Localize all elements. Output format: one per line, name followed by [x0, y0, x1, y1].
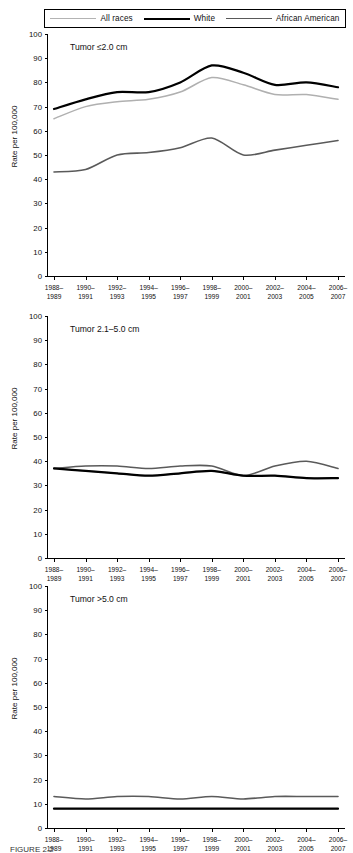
x-tick-6	[243, 276, 244, 280]
legend-line-white-icon	[144, 18, 190, 20]
legend-label-all-races: All races	[100, 14, 132, 23]
y-tick-label-40: 40	[12, 457, 42, 466]
x-axis-2	[47, 828, 345, 829]
series-lines-0	[47, 34, 345, 276]
x-tick-1	[86, 558, 87, 562]
y-tick-label-50: 50	[12, 433, 42, 442]
x-tick-7	[275, 558, 276, 562]
y-axis-label-0: Rate per 100,000	[10, 67, 19, 207]
x-tick-8	[306, 276, 307, 280]
y-tick-label-100: 100	[12, 312, 42, 321]
x-tick-2	[117, 276, 118, 280]
y-tick-label-30: 30	[12, 751, 42, 760]
plot-area-1: 01020304050607080901001988– 19891990– 19…	[47, 316, 345, 558]
legend-entry-all-races: All races	[50, 14, 132, 23]
y-tick-label-90: 90	[12, 336, 42, 345]
chart-legend: All races White African American	[44, 9, 346, 28]
figure-container: All races White African American Rate pe…	[0, 0, 353, 853]
x-tick-0	[54, 828, 55, 832]
x-tick-6	[243, 558, 244, 562]
y-tick-label-0: 0	[12, 824, 42, 833]
x-tick-0	[54, 558, 55, 562]
y-tick-label-20: 20	[12, 223, 42, 232]
y-axis-label-1: Rate per 100,000	[10, 349, 19, 489]
y-tick-label-80: 80	[12, 360, 42, 369]
y-tick-label-80: 80	[12, 630, 42, 639]
y-tick-label-0: 0	[12, 554, 42, 563]
y-tick-label-40: 40	[12, 175, 42, 184]
line-white-1	[54, 468, 338, 478]
legend-label-white: White	[194, 14, 215, 23]
x-tick-1	[86, 828, 87, 832]
y-tick-label-40: 40	[12, 727, 42, 736]
y-tick-label-30: 30	[12, 199, 42, 208]
x-tick-0	[54, 276, 55, 280]
y-tick-label-20: 20	[12, 775, 42, 784]
y-tick-label-60: 60	[12, 678, 42, 687]
y-tick-0	[45, 828, 49, 829]
x-tick-4	[180, 828, 181, 832]
figure-caption: FIGURE 2.2	[10, 845, 350, 853]
x-tick-8	[306, 558, 307, 562]
y-tick-0	[45, 276, 49, 277]
legend-label-african-american: African American	[276, 14, 340, 23]
plot-area-2: 01020304050607080901001988– 19891990– 19…	[47, 586, 345, 828]
y-tick-label-0: 0	[12, 272, 42, 281]
x-tick-6	[243, 828, 244, 832]
x-tick-5	[212, 558, 213, 562]
x-tick-label-9: 2006– 2007	[318, 283, 353, 301]
x-tick-8	[306, 828, 307, 832]
line-white-0	[54, 65, 338, 109]
legend-entry-white: White	[144, 14, 215, 23]
x-tick-9	[338, 276, 339, 280]
x-tick-9	[338, 558, 339, 562]
series-lines-1	[47, 316, 345, 558]
chart-panel-tumor-le-2cm: Rate per 100,000 Tumor ≤2.0 cm 010203040…	[0, 28, 353, 300]
x-tick-2	[117, 558, 118, 562]
series-lines-2	[47, 586, 345, 828]
x-tick-7	[275, 828, 276, 832]
x-tick-2	[117, 828, 118, 832]
x-tick-5	[212, 276, 213, 280]
y-tick-label-20: 20	[12, 505, 42, 514]
x-tick-3	[149, 828, 150, 832]
y-tick-label-10: 10	[12, 799, 42, 808]
x-tick-3	[149, 276, 150, 280]
chart-panel-tumor-2-1-to-5cm: Rate per 100,000 Tumor 2.1–5.0 cm 010203…	[0, 310, 353, 582]
y-tick-label-90: 90	[12, 54, 42, 63]
y-tick-label-60: 60	[12, 126, 42, 135]
y-tick-label-10: 10	[12, 247, 42, 256]
x-axis-0	[47, 276, 345, 277]
y-tick-label-70: 70	[12, 102, 42, 111]
y-tick-label-50: 50	[12, 151, 42, 160]
y-tick-label-80: 80	[12, 78, 42, 87]
y-tick-label-70: 70	[12, 654, 42, 663]
y-axis-label-2: Rate per 100,000	[10, 619, 19, 759]
x-tick-5	[212, 828, 213, 832]
y-tick-0	[45, 558, 49, 559]
x-tick-1	[86, 276, 87, 280]
y-tick-label-10: 10	[12, 529, 42, 538]
x-axis-1	[47, 558, 345, 559]
legend-line-all-races-icon	[50, 18, 96, 19]
x-tick-4	[180, 276, 181, 280]
x-tick-9	[338, 828, 339, 832]
line-african-american-1	[54, 461, 338, 476]
y-tick-label-50: 50	[12, 703, 42, 712]
legend-entry-african-american: African American	[226, 14, 340, 23]
y-tick-label-100: 100	[12, 30, 42, 39]
legend-line-african-american-icon	[226, 18, 272, 19]
y-tick-label-60: 60	[12, 408, 42, 417]
x-tick-4	[180, 558, 181, 562]
line-african-american-0	[54, 138, 338, 172]
y-tick-label-70: 70	[12, 384, 42, 393]
plot-area-0: 01020304050607080901001988– 19891990– 19…	[47, 34, 345, 276]
x-tick-7	[275, 276, 276, 280]
line-african-american-2	[54, 796, 338, 799]
y-tick-label-30: 30	[12, 481, 42, 490]
chart-panel-tumor-gt-5cm: Rate per 100,000 Tumor >5.0 cm 010203040…	[0, 580, 353, 852]
y-tick-label-100: 100	[12, 582, 42, 591]
x-tick-3	[149, 558, 150, 562]
y-tick-label-90: 90	[12, 606, 42, 615]
